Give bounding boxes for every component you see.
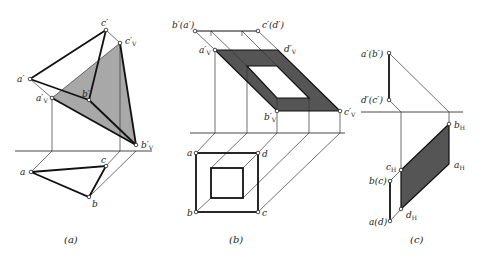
point-c-prime [104, 28, 108, 32]
caption-c: (c) [410, 234, 424, 245]
label-ba-prime: b′(a′) [172, 20, 195, 30]
rotated-triangle-fill [52, 43, 136, 145]
point-b [87, 195, 91, 199]
panel-a: c′ c′V a′ a′V b′ b′V a c b [15, 18, 154, 209]
rotated-frame-fill [215, 50, 340, 111]
label-bV-b: b′V [264, 112, 277, 123]
label-c-b: c [262, 208, 267, 218]
label-dH: dH [406, 210, 417, 221]
label-c: c [101, 155, 106, 165]
panel-b: b′(a′) c′(d′) a′V d′V b′V c′V a d b c [172, 20, 356, 218]
point-cd-prime [256, 29, 260, 33]
caption-a: (a) [64, 234, 78, 245]
point-d-b [256, 151, 260, 155]
label-dc-prime: d′(c′) [361, 95, 383, 105]
label-ad: a(d) [369, 217, 388, 227]
caption-b: (b) [229, 234, 243, 245]
point-cV-b [338, 109, 342, 113]
top-view-triangle-a [31, 166, 106, 197]
point-bc [388, 179, 392, 183]
point-bH [447, 122, 451, 126]
label-aH: aH [454, 160, 465, 171]
label-cH: cH [386, 162, 396, 173]
point-dc-prime [387, 98, 391, 102]
label-bH: bH [454, 120, 465, 131]
label-d-b: d [262, 149, 268, 159]
rotated-plane-fill [401, 124, 449, 209]
point-aV-b [213, 48, 217, 52]
label-ab-prime: a′(b′) [361, 49, 384, 59]
label-bV: b′V [141, 140, 154, 151]
label-cd-prime: c′(d′) [262, 20, 284, 30]
point-c-b [256, 210, 260, 214]
point-cV [118, 41, 122, 45]
label-bc: b(c) [369, 176, 387, 186]
point-a-prime [28, 77, 32, 81]
point-aV [50, 96, 54, 100]
point-bV-b [275, 109, 279, 113]
point-cH [399, 168, 403, 172]
label-b-b: b [187, 208, 193, 218]
label-a: a [20, 167, 25, 177]
label-b-prime: b′ [82, 89, 90, 99]
point-ab-prime [387, 51, 391, 55]
top-view-inner-square [211, 168, 243, 198]
label-a-prime: a′ [17, 74, 24, 84]
point-a-b [194, 151, 198, 155]
projection-figure: c′ c′V a′ a′V b′ b′V a c b [0, 0, 481, 259]
label-aV: a′V [36, 93, 48, 104]
label-b: b [92, 199, 98, 209]
label-cV: c′V [125, 36, 137, 47]
panel-c: a′(b′) d′(c′) bH aH cH dH b(c) a(d) [361, 49, 465, 227]
point-a [29, 170, 33, 174]
label-a-b: a [187, 148, 192, 158]
point-dH [399, 207, 403, 211]
point-ad [388, 219, 392, 223]
label-cV-b: c′V [344, 107, 356, 118]
point-b-b [194, 210, 198, 214]
label-c-prime: c′ [101, 18, 108, 28]
label-aV-b: a′V [199, 45, 211, 56]
label-dV-b: d′V [284, 44, 297, 55]
point-bV [134, 143, 138, 147]
